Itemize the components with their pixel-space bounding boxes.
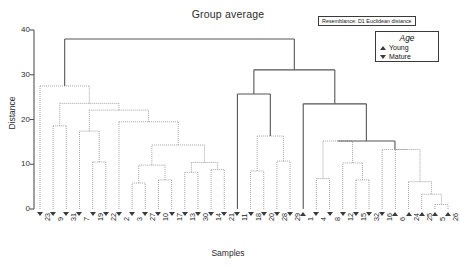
leaf-label-3: 3 — [135, 217, 144, 221]
leaf-label-9: 9 — [56, 217, 65, 221]
leaf-marker-20 — [261, 212, 267, 216]
leaf-marker-22 — [103, 212, 109, 216]
leaf-label-8: 8 — [333, 217, 342, 221]
leaf-marker-4 — [313, 212, 319, 216]
leaf-marker-1 — [300, 212, 306, 216]
leaf-marker-18 — [248, 212, 254, 216]
leaf-marker-9 — [50, 212, 56, 216]
leaf-label-7: 7 — [82, 217, 91, 221]
leaf-marker-17 — [169, 212, 175, 216]
leaf-label-6: 6 — [398, 217, 407, 221]
leaf-marker-19 — [90, 212, 96, 216]
leaf-marker-25 — [419, 212, 425, 216]
leaf-marker-7 — [76, 212, 82, 216]
leaf-label-26: 26 — [451, 213, 460, 221]
leaf-label-5: 5 — [438, 217, 447, 221]
leaf-marker-6 — [392, 212, 398, 216]
leaf-label-2: 2 — [122, 217, 131, 221]
leaf-marker-12 — [340, 212, 346, 216]
leaf-label-4: 4 — [319, 217, 328, 221]
leaf-marker-3 — [129, 212, 135, 216]
leaf-marker-13 — [182, 212, 188, 216]
leaf-marker-24 — [406, 212, 412, 216]
leaf-marker-8 — [327, 212, 333, 216]
leaf-label-1: 1 — [306, 217, 315, 221]
leaf-marker-2 — [116, 212, 122, 216]
leaf-marker-28 — [274, 212, 280, 216]
leaf-marker-15 — [353, 212, 359, 216]
leaf-marker-5 — [432, 212, 438, 216]
